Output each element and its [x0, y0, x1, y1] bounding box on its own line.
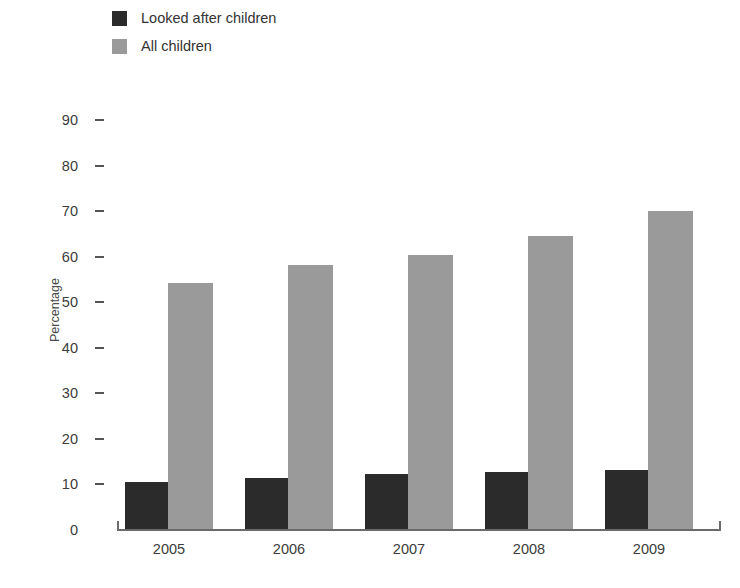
x-axis-tick-label-2005: 2005: [109, 541, 229, 557]
x-axis-line: [117, 529, 721, 531]
bar-2006-all-children: [288, 265, 333, 530]
bar-2008-all-children: [528, 236, 573, 530]
bars-layer: [0, 0, 740, 530]
bar-2005-all-children: [168, 283, 213, 530]
bar-2009-all-children: [648, 211, 693, 530]
x-axis-cap-left: [117, 521, 119, 531]
x-axis-tick-label-2006: 2006: [229, 541, 349, 557]
x-axis-tick-label-2009: 2009: [589, 541, 709, 557]
bar-2007-all-children: [408, 255, 453, 530]
bar-2005-looked-after-children: [125, 482, 168, 530]
bar-2008-looked-after-children: [485, 472, 528, 530]
bar-chart: Percentage 9080706050403020100 200520062…: [0, 0, 740, 588]
x-axis-tick-label-2007: 2007: [349, 541, 469, 557]
x-axis-tick-label-2008: 2008: [469, 541, 589, 557]
bar-2006-looked-after-children: [245, 478, 288, 530]
x-axis-cap-right: [719, 521, 721, 531]
bar-2007-looked-after-children: [365, 474, 408, 530]
bar-2009-looked-after-children: [605, 470, 648, 530]
